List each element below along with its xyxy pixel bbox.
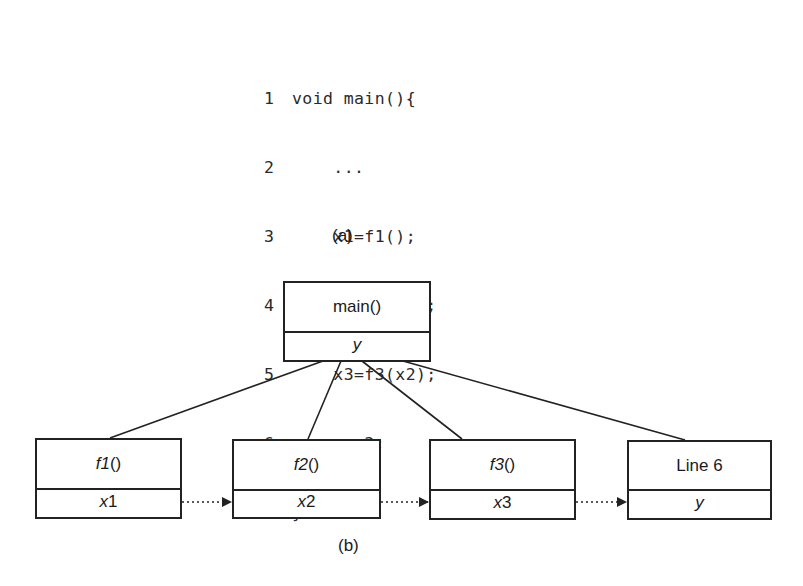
node-f2-var: x2 (234, 487, 379, 517)
node-f2-title: f2() (234, 441, 379, 491)
node-f3-title: f3() (431, 441, 574, 491)
node-f3-var: x3 (431, 487, 574, 518)
node-main-title: main() (285, 283, 429, 333)
node-f1-title: f1() (37, 440, 180, 490)
node-f3: f3() x3 (429, 439, 576, 520)
edge-main-line6 (403, 361, 685, 440)
var-name: x (298, 492, 307, 512)
var-name: x (494, 493, 503, 513)
var-index: 1 (108, 492, 117, 512)
fn-name: f3 (490, 455, 504, 475)
node-f2: f2() x2 (232, 439, 381, 519)
fn-paren: () (308, 455, 319, 475)
node-f1-var: x1 (37, 486, 180, 517)
fn-paren: () (110, 454, 121, 474)
var-index: 3 (502, 493, 511, 513)
node-f1: f1() x1 (35, 438, 182, 519)
node-line6-title: Line 6 (629, 442, 770, 491)
fn-name: f2 (294, 455, 308, 475)
var-index: 2 (306, 492, 315, 512)
caption-b: (b) (338, 536, 359, 556)
edge-main-f2 (308, 361, 341, 439)
fn-name: f1 (96, 454, 110, 474)
node-main-var: y (285, 329, 429, 360)
node-main: main() y (283, 281, 431, 362)
edge-main-f1 (110, 361, 323, 438)
node-line6: Line 6 y (627, 440, 772, 520)
node-line6-var: y (629, 487, 770, 518)
fn-paren: () (504, 455, 515, 475)
var-name: x (100, 492, 109, 512)
